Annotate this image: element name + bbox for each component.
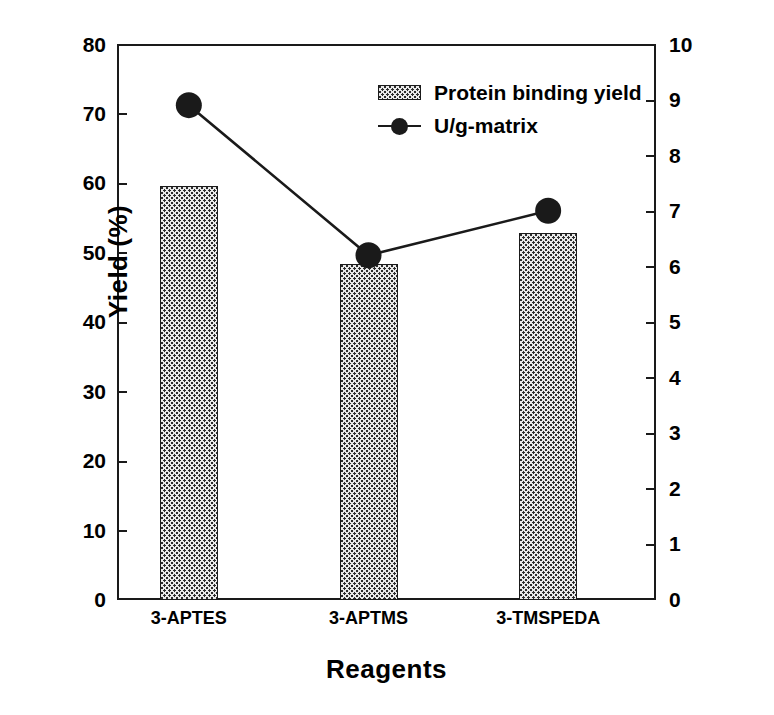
- y-tick-label-left: 0: [46, 589, 106, 610]
- y-tick-label-right: 4: [669, 367, 729, 388]
- y-tick-label-right: 9: [669, 89, 729, 110]
- bar-3-aptes[interactable]: [160, 186, 218, 600]
- y-tick-mark-right: [646, 155, 655, 157]
- x-tick-label-3-aptes: 3-APTES: [124, 608, 254, 629]
- chart-legend: Protein binding yield U/g-matrix: [378, 76, 642, 142]
- legend-item-protein-binding-yield[interactable]: Protein binding yield: [378, 76, 642, 109]
- legend-item-u-g-matrix[interactable]: U/g-matrix: [378, 109, 642, 142]
- y-tick-mark-left: [118, 530, 127, 532]
- y-tick-label-right: 7: [669, 200, 729, 221]
- y-tick-mark-right: [646, 433, 655, 435]
- y-tick-label-right: 10: [669, 34, 729, 55]
- legend-line-circle-icon: [378, 117, 421, 135]
- legend-label: Protein binding yield: [434, 81, 642, 105]
- y-tick-mark-left: [118, 461, 127, 463]
- y-tick-label-left: 50: [46, 242, 106, 263]
- y-tick-label-left: 60: [46, 172, 106, 193]
- y-tick-label-left: 10: [46, 520, 106, 541]
- y-tick-label-right: 8: [669, 145, 729, 166]
- y-tick-mark-right: [646, 488, 655, 490]
- x-axis-title: Reagents: [117, 654, 656, 685]
- y-tick-mark-right: [646, 377, 655, 379]
- x-tick-label-3-aptms: 3-APTMS: [304, 608, 434, 629]
- y-tick-label-right: 2: [669, 478, 729, 499]
- y-tick-mark-right: [646, 100, 655, 102]
- y-tick-label-left: 40: [46, 311, 106, 332]
- x-tick-label-3-tmspeda: 3-TMSPEDA: [483, 608, 613, 629]
- y-tick-mark-right: [646, 322, 655, 324]
- y-tick-label-left: 20: [46, 450, 106, 471]
- legend-label: U/g-matrix: [434, 114, 538, 138]
- y-tick-label-right: 3: [669, 422, 729, 443]
- y-tick-label-left: 80: [46, 34, 106, 55]
- y-tick-label-right: 6: [669, 256, 729, 277]
- y-tick-label-left: 30: [46, 381, 106, 402]
- y-tick-label-right: 5: [669, 311, 729, 332]
- bar-3-aptms[interactable]: [340, 264, 398, 600]
- y-tick-mark-right: [646, 266, 655, 268]
- y-tick-label-right: 1: [669, 533, 729, 554]
- y-tick-label-right: 0: [669, 589, 729, 610]
- y-axis-title-left: Yield (%): [103, 142, 134, 382]
- y-tick-mark-right: [646, 211, 655, 213]
- y-tick-mark-left: [118, 391, 127, 393]
- bar-3-tmspeda[interactable]: [519, 233, 577, 600]
- legend-swatch-hatched-icon: [378, 85, 421, 100]
- chart-figure: 80 70 60 50 40 30 20 10 0 10 9 8 7 6 5 4…: [0, 0, 774, 715]
- y-tick-mark-right: [646, 544, 655, 546]
- y-tick-mark-left: [118, 113, 127, 115]
- y-tick-label-left: 70: [46, 103, 106, 124]
